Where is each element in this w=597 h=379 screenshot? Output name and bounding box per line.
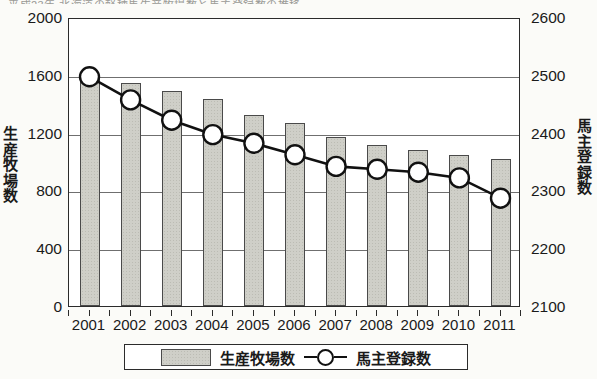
x-boundary-tick-0 [68, 310, 69, 316]
x-boundary-tick-8 [397, 310, 398, 316]
x-boundary-tick-10 [479, 310, 480, 316]
left-tick-label-2000: 2000 [0, 9, 70, 27]
circle-marker-2001 [80, 67, 99, 86]
x-tick-label-2009: 2009 [401, 316, 434, 333]
right-axis-title-char-2: 登 [576, 149, 593, 165]
line-series [69, 19, 521, 308]
x-boundary-tick-2 [150, 310, 151, 316]
line-path [90, 77, 501, 198]
legend-line-segment-left [304, 356, 317, 359]
x-boundary-tick-6 [315, 310, 316, 316]
left-axis-title-char-2: 牧 [2, 157, 19, 173]
circle-marker-2008 [368, 160, 387, 179]
circle-marker-2007 [327, 157, 346, 176]
right-axis-title-char-3: 録 [576, 165, 593, 181]
circle-marker-2002 [121, 90, 140, 109]
x-tick-label-2004: 2004 [195, 316, 228, 333]
chart-page: 平成23年 北海道の軽種馬生産牧場数と馬主登録数の推移 200016001200… [0, 0, 597, 379]
left-axis-title-char-3: 場 [2, 173, 19, 189]
x-boundary-tick-3 [191, 310, 192, 316]
right-axis-title-char-1: 主 [576, 134, 593, 150]
plot-area [68, 18, 520, 307]
x-boundary-tick-7 [356, 310, 357, 316]
right-axis-title-char-0: 馬 [576, 118, 593, 134]
circle-marker-2005 [244, 134, 263, 153]
legend-line-marker [304, 349, 347, 366]
left-tick-label-0: 0 [0, 298, 70, 316]
x-boundary-tick-1 [109, 310, 110, 316]
legend-line-label: 馬主登録数 [356, 347, 431, 368]
x-tick-label-2002: 2002 [113, 316, 146, 333]
left-tick-label-400: 400 [0, 240, 70, 258]
circle-marker-2010 [450, 168, 469, 187]
left-tick-label-1600: 1600 [0, 67, 70, 85]
right-tick-label-2500: 2500 [524, 67, 593, 85]
x-boundary-tick-11 [520, 310, 521, 316]
circle-marker-2004 [203, 125, 222, 144]
circle-marker-2006 [286, 145, 305, 164]
right-axis-title: 馬主登録数 [576, 118, 593, 196]
x-boundary-tick-4 [232, 310, 233, 316]
legend-bar-swatch [161, 349, 211, 366]
x-tick-label-2007: 2007 [318, 316, 351, 333]
x-tick-label-2001: 2001 [72, 316, 105, 333]
circle-marker-2011 [491, 189, 510, 208]
x-tick-label-2005: 2005 [236, 316, 269, 333]
right-axis-title-char-4: 数 [576, 180, 593, 196]
circle-marker-2009 [409, 163, 428, 182]
x-tick-label-2008: 2008 [360, 316, 393, 333]
left-axis-title-char-0: 生 [2, 126, 19, 142]
x-tick-label-2006: 2006 [277, 316, 310, 333]
legend-bar-label: 生産牧場数 [220, 347, 295, 368]
left-axis-title-char-4: 数 [2, 188, 19, 204]
legend-line-segment-right [334, 356, 347, 359]
left-axis-title: 生産牧場数 [2, 126, 19, 204]
x-tick-label-2010: 2010 [442, 316, 475, 333]
cut-off-caption: 平成23年 北海道の軽種馬生産牧場数と馬主登録数の推移 [8, 0, 438, 4]
left-axis-title-char-1: 産 [2, 142, 19, 158]
x-boundary-tick-9 [438, 310, 439, 316]
right-tick-label-2100: 2100 [524, 298, 593, 316]
x-boundary-tick-5 [274, 310, 275, 316]
chart-legend: 生産牧場数 馬主登録数 [124, 344, 468, 370]
right-tick-label-2600: 2600 [524, 9, 593, 27]
x-tick-label-2011: 2011 [483, 316, 515, 333]
legend-circle-marker-icon [317, 349, 334, 366]
x-axis: 2001200220032004200520062007200820092010… [68, 310, 520, 332]
x-tick-label-2003: 2003 [154, 316, 187, 333]
right-tick-label-2200: 2200 [524, 240, 593, 258]
circle-marker-2003 [162, 111, 181, 130]
